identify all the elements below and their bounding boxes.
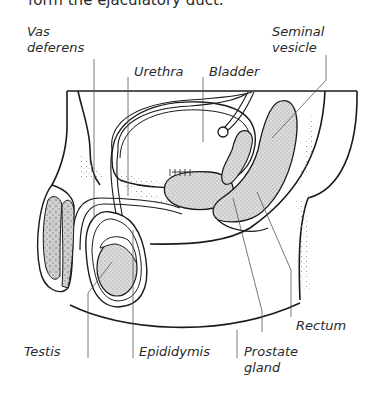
label-vas-deferens: Vas deferens [27,24,84,56]
penis [38,185,74,291]
label-testis: Testis [24,344,61,360]
anatomy-diagram [0,0,374,398]
label-line: vesicle [272,40,324,56]
label-bladder: Bladder [209,64,259,80]
scrotum [86,212,147,307]
label-line: Urethra [134,64,184,80]
label-rectum: Rectum [296,318,346,334]
label-line: Vas [27,24,84,40]
label-prostate-gland: Prostate gland [244,344,298,376]
label-line: gland [244,360,298,376]
label-line: Prostate [244,344,298,360]
label-line: Bladder [209,64,259,80]
label-urethra: Urethra [134,64,184,80]
label-epididymis: Epididymis [139,344,210,360]
label-line: Seminal [272,24,324,40]
label-seminal-vesicle: Seminal vesicle [272,24,324,56]
label-line: Epididymis [139,344,210,360]
label-line: deferens [27,40,84,56]
label-line: Rectum [296,318,346,334]
label-line: Testis [24,344,61,360]
